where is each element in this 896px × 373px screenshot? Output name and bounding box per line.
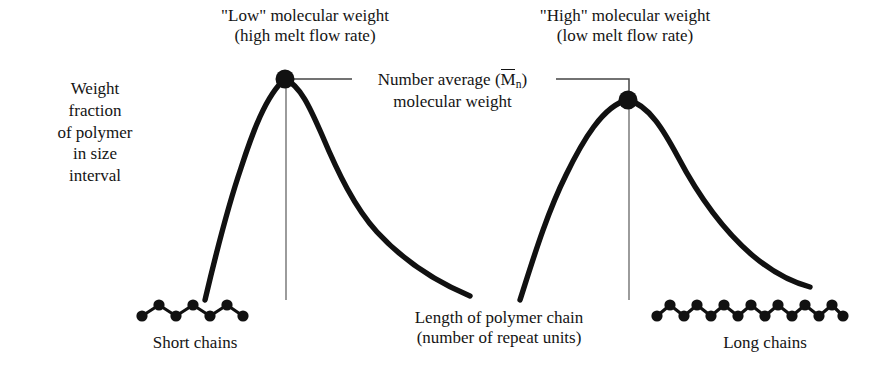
short-chain-diagram: [136, 299, 248, 321]
m-bar-symbol: M: [501, 70, 516, 91]
molecular-weight-distribution-figure: "Low" molecular weight (high melt flow r…: [0, 0, 896, 373]
title-high-molecular-weight: "High" molecular weight (low melt flow r…: [490, 6, 760, 46]
y-axis-label-line5: interval: [20, 165, 170, 187]
y-axis-label-line2: fraction: [20, 100, 170, 122]
title-low-molecular-weight: "Low" molecular weight (high melt flow r…: [170, 6, 440, 46]
long-chain-diagram: [651, 299, 848, 321]
annotation-line2: molecular weight: [355, 92, 550, 113]
distribution-curve-high: [520, 100, 810, 300]
title-high-line2: (low melt flow rate): [490, 26, 760, 46]
annotation-suffix: ): [521, 70, 527, 89]
y-axis-label-line1: Weight: [20, 78, 170, 100]
y-axis-label-line3: of polymer: [20, 122, 170, 144]
long-chains-label: Long chains: [690, 333, 840, 353]
annotation-line1: Number average (Mn): [355, 70, 550, 92]
annotation-leader-right: [556, 79, 629, 93]
title-high-line1: "High" molecular weight: [490, 6, 760, 26]
y-axis-label: Weight fraction of polymer in size inter…: [20, 78, 170, 187]
x-axis-label: Length of polymer chain (number of repea…: [370, 308, 628, 349]
peak-marker-low: [276, 70, 295, 89]
y-axis-label-line4: in size: [20, 143, 170, 165]
x-axis-label-line1: Length of polymer chain: [370, 308, 628, 328]
peak-marker-high: [619, 91, 638, 110]
title-low-line2: (high melt flow rate): [170, 26, 440, 46]
annotation-prefix: Number average (: [378, 70, 501, 89]
short-chains-label: Short chains: [120, 333, 270, 353]
title-low-line1: "Low" molecular weight: [170, 6, 440, 26]
x-axis-label-line2: (number of repeat units): [370, 328, 628, 348]
number-average-annotation: Number average (Mn) molecular weight: [355, 70, 550, 112]
